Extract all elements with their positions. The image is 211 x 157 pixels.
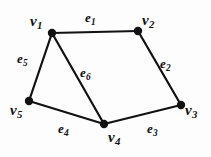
edge-label-e4: e4: [58, 122, 69, 138]
edge-label-e6-subscript: 6: [86, 72, 91, 82]
vertex-label-v3-base: v: [185, 102, 192, 118]
edge-label-e6: e6: [80, 66, 91, 82]
edge-label-e4-subscript: 4: [64, 128, 69, 138]
vertex-label-v5-subscript: 5: [17, 108, 23, 120]
graph-vertex-v5: [25, 97, 33, 105]
edge-label-e5-subscript: 5: [23, 58, 28, 68]
graph-vertex-v4: [100, 120, 108, 128]
edge-label-e2-base: e: [160, 56, 166, 71]
graph-vertex-v3: [177, 101, 185, 109]
edge-label-e2-subscript: 2: [166, 63, 171, 73]
vertex-label-v5-base: v: [10, 102, 17, 118]
vertex-label-v1-base: v: [30, 13, 37, 29]
graph-edge-e3: [104, 105, 181, 124]
vertex-label-v4: v4: [108, 130, 120, 147]
vertex-label-v3: v3: [185, 103, 197, 120]
vertex-label-v1: v1: [30, 14, 42, 31]
edge-label-e1: e1: [85, 11, 96, 27]
edge-label-e6-base: e: [80, 65, 86, 80]
vertex-label-v5: v5: [10, 103, 22, 120]
vertex-label-v4-base: v: [108, 129, 115, 145]
edge-label-e4-base: e: [58, 121, 64, 136]
vertex-label-v1-subscript: 1: [37, 19, 43, 31]
vertex-label-v2: v2: [142, 13, 154, 30]
edge-label-e3: e3: [147, 122, 158, 138]
edges-group: [29, 31, 181, 124]
vertex-label-v2-subscript: 2: [149, 18, 155, 30]
graph-diagram: v1v2v3v4v5e1e2e3e4e5e6: [0, 0, 211, 157]
vertex-label-v4-subscript: 4: [115, 135, 121, 147]
graph-edge-e1: [52, 31, 138, 33]
vertex-label-v2-base: v: [142, 12, 149, 28]
graph-edge-e5: [29, 33, 52, 101]
edge-label-e3-subscript: 3: [153, 128, 158, 138]
edge-label-e1-base: e: [85, 10, 91, 25]
graph-vertex-v1: [48, 29, 56, 37]
edge-label-e1-subscript: 1: [91, 17, 96, 27]
edge-label-e5-base: e: [17, 51, 23, 66]
vertex-label-v3-subscript: 3: [192, 108, 198, 120]
graph-vertex-v2: [134, 27, 142, 35]
edge-label-e3-base: e: [147, 121, 153, 136]
edge-label-e2: e2: [160, 57, 171, 73]
edge-label-e5: e5: [17, 52, 28, 68]
